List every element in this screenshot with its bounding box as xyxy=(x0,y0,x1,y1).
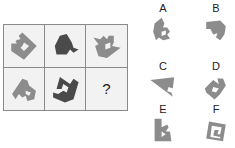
option-label: A xyxy=(143,2,183,14)
hooked-pentagon-shape xyxy=(7,29,41,63)
option-f[interactable]: F xyxy=(196,103,235,147)
grid-cell-r1c2 xyxy=(45,25,86,68)
option-a[interactable]: A xyxy=(143,2,183,46)
missing-cell-question-mark: ? xyxy=(102,80,110,97)
spiral-square-shape xyxy=(202,116,230,144)
grid-cell-r2c2 xyxy=(45,68,86,111)
puzzle-grid: ? xyxy=(3,24,128,111)
bird-blob-shape xyxy=(48,29,82,63)
option-e[interactable]: E xyxy=(143,103,183,147)
cut-blob-shape xyxy=(202,15,230,43)
option-d[interactable]: D xyxy=(196,60,235,104)
notched-wedge-shape xyxy=(90,29,124,63)
grid-cell-r1c3 xyxy=(86,25,127,68)
grid-cell-r2c3: ? xyxy=(86,68,127,111)
option-label: F xyxy=(196,103,235,115)
triangle-notch-shape xyxy=(149,73,177,101)
stepped-arrow-shape xyxy=(7,72,41,106)
upright-notched-tile-shape xyxy=(149,116,177,144)
option-label: B xyxy=(196,2,235,14)
option-c[interactable]: C xyxy=(143,60,183,104)
horned-wedge-shape xyxy=(48,72,82,106)
option-b[interactable]: B xyxy=(196,2,235,46)
option-label: D xyxy=(196,60,235,72)
option-label: E xyxy=(143,103,183,115)
rotated-notched-square-shape xyxy=(202,73,230,101)
grid-cell-r2c1 xyxy=(4,68,45,111)
grid-cell-r1c1 xyxy=(4,25,45,68)
notched-tile-shape xyxy=(149,15,177,43)
option-label: C xyxy=(143,60,183,72)
